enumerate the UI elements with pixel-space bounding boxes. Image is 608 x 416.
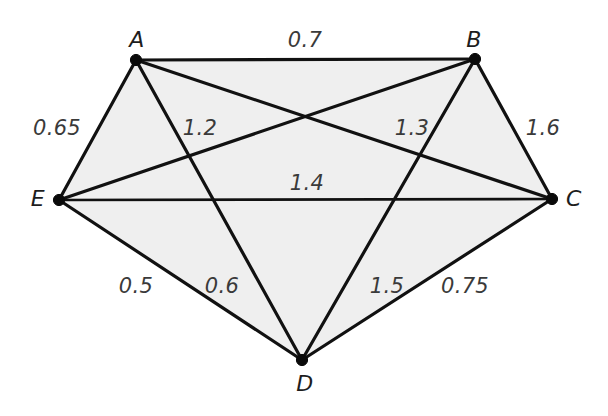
graph-edge-weight-a-c: 1.3 bbox=[395, 118, 429, 139]
graph-edge-weight-b-e: 1.2 bbox=[183, 118, 217, 139]
graph-edge-weight-c-d: 0.75 bbox=[441, 276, 489, 297]
graph-edge-weight-a-b: 0.7 bbox=[288, 30, 322, 51]
graph-node-label-d: D bbox=[296, 373, 313, 395]
graph-node-label-c: C bbox=[566, 188, 582, 210]
graph-edge-weight-b-c: 1.6 bbox=[526, 118, 560, 139]
graph-interior-polygon bbox=[59, 59, 552, 360]
graph-edge-weight-e-d: 0.5 bbox=[119, 276, 153, 297]
graph-edge-weight-a-d: 0.6 bbox=[205, 276, 239, 297]
graph-node-label-e: E bbox=[31, 188, 45, 210]
graph-node-c bbox=[546, 193, 557, 204]
graph-edge-weight-a-e: 0.65 bbox=[33, 118, 81, 139]
graph-figure-canvas: ABCDE0.70.651.21.31.61.40.50.61.50.75 bbox=[0, 0, 608, 416]
graph-node-label-a: A bbox=[129, 29, 145, 51]
graph-interior-fill bbox=[59, 59, 552, 360]
graph-node-d bbox=[296, 354, 307, 365]
graph-node-a bbox=[130, 54, 141, 65]
graph-node-label-b: B bbox=[466, 29, 482, 51]
graph-edge-weight-b-d: 1.5 bbox=[370, 276, 404, 297]
graph-edge-e-c bbox=[59, 199, 552, 200]
graph-node-e bbox=[53, 194, 64, 205]
graph-edge-weight-e-c: 1.4 bbox=[290, 173, 324, 194]
graph-node-b bbox=[469, 53, 480, 64]
graph-drawing bbox=[0, 0, 608, 416]
graph-edge-a-b bbox=[136, 59, 475, 60]
